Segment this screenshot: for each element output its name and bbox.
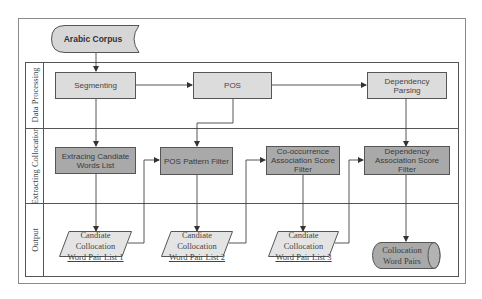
- candidate-list-2-node: Candiate Collocation Word Pair List 2: [161, 231, 233, 257]
- arabic-corpus-node: Arabic Corpus: [51, 25, 140, 53]
- list2-line2: Collocation: [161, 241, 233, 252]
- list1-line1: Candiate: [59, 230, 132, 241]
- dependency-parsing-node: Dependency Parsing: [367, 72, 447, 99]
- list2-line1: Candiate: [161, 230, 233, 241]
- dependency-filter-node: Dependency Association Score Filter: [364, 146, 450, 175]
- collocation-word-pairs-node: Collocation Word Pairs: [372, 242, 441, 269]
- pos-node: POS: [193, 72, 272, 99]
- segmenting-node: Segmenting: [55, 72, 136, 99]
- pos-pattern-filter-node: POS Pattern Filter: [160, 147, 233, 175]
- list3-line3: Word Pair List 3: [268, 252, 339, 263]
- cooccurrence-filter-node: Co-occurrence Association Score Filter: [266, 146, 340, 175]
- list3-line1: Candiate: [268, 230, 339, 241]
- candidate-list-3-node: Candiate Collocation Word Pair List 3: [268, 231, 339, 257]
- list1-line2: Collocation: [59, 241, 132, 252]
- extracting-candidate-words-node: Extracing Candiate Words List: [55, 147, 136, 174]
- list3-line2: Collocation: [268, 241, 339, 252]
- list2-line3: Word Pair List 2: [161, 252, 233, 263]
- collocation-word-pairs-label: Collocation Word Pairs: [374, 244, 430, 268]
- list1-line3: Word Pair List 1: [59, 252, 132, 263]
- arabic-corpus-label: Arabic Corpus: [55, 25, 131, 53]
- candidate-list-1-node: Candiate Collocation Word Pair List 1: [59, 231, 132, 257]
